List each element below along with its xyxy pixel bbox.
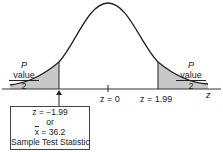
- axis-label-z: z: [206, 90, 211, 100]
- arrow-head-icon: [56, 90, 62, 95]
- tick-label-z-right: z = 1.99: [140, 94, 172, 104]
- right-p-value-numerator: P value: [176, 60, 206, 81]
- test-statistic-box: z = −1.99 or x = 36.2 Sample Test Statis…: [10, 106, 90, 150]
- box-line-z: z = −1.99: [11, 107, 89, 117]
- left-p-value-denominator: 2: [9, 81, 39, 91]
- tick-label-z0: z = 0: [100, 94, 120, 104]
- right-p-value-denominator: 2: [176, 81, 206, 91]
- right-tail-label: P value 2: [176, 60, 206, 91]
- box-line-or: or: [11, 117, 89, 127]
- left-tail-label: P value 2: [9, 60, 39, 91]
- box-line-caption: Sample Test Statistic: [11, 137, 89, 147]
- left-p-value-numerator: P value: [9, 60, 39, 81]
- box-line-xbar: x = 36.2: [11, 127, 89, 137]
